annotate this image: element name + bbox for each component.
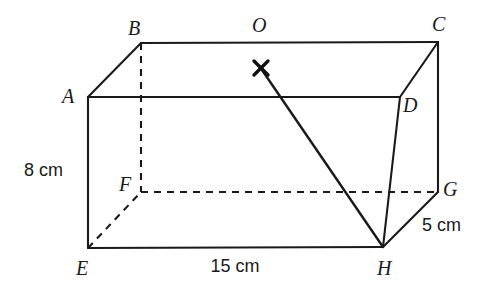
vertex-label-e: E <box>75 257 88 279</box>
dimension-labels-group: 8 cm15 cm5 cm <box>24 160 461 276</box>
vertex-label-d: D <box>402 94 418 116</box>
edge-bc <box>141 42 438 43</box>
vertex-label-h: H <box>376 257 393 279</box>
vertex-label-o: O <box>252 14 266 36</box>
vertex-label-g: G <box>443 178 458 200</box>
dimension-label-height: 8 cm <box>24 160 63 180</box>
edge-ef <box>88 192 141 248</box>
x-point-marker <box>254 61 268 75</box>
vertex-label-a: A <box>60 85 75 107</box>
vertex-label-b: B <box>128 17 140 39</box>
cuboid-figure: ABCDEFGHO 8 cm15 cm5 cm <box>0 0 493 291</box>
geometry-diagram: ABCDEFGHO 8 cm15 cm5 cm <box>0 0 493 291</box>
edge-ab <box>88 43 141 97</box>
vertex-label-f: F <box>118 173 132 195</box>
edge-cd <box>400 42 438 97</box>
edge-eh <box>88 247 383 248</box>
edge-dh <box>383 97 400 247</box>
dimension-label-depth: 5 cm <box>422 215 461 235</box>
vertex-label-c: C <box>432 13 446 35</box>
dimension-label-length: 15 cm <box>210 256 259 276</box>
vertex-labels-group: ABCDEFGHO <box>60 13 458 279</box>
